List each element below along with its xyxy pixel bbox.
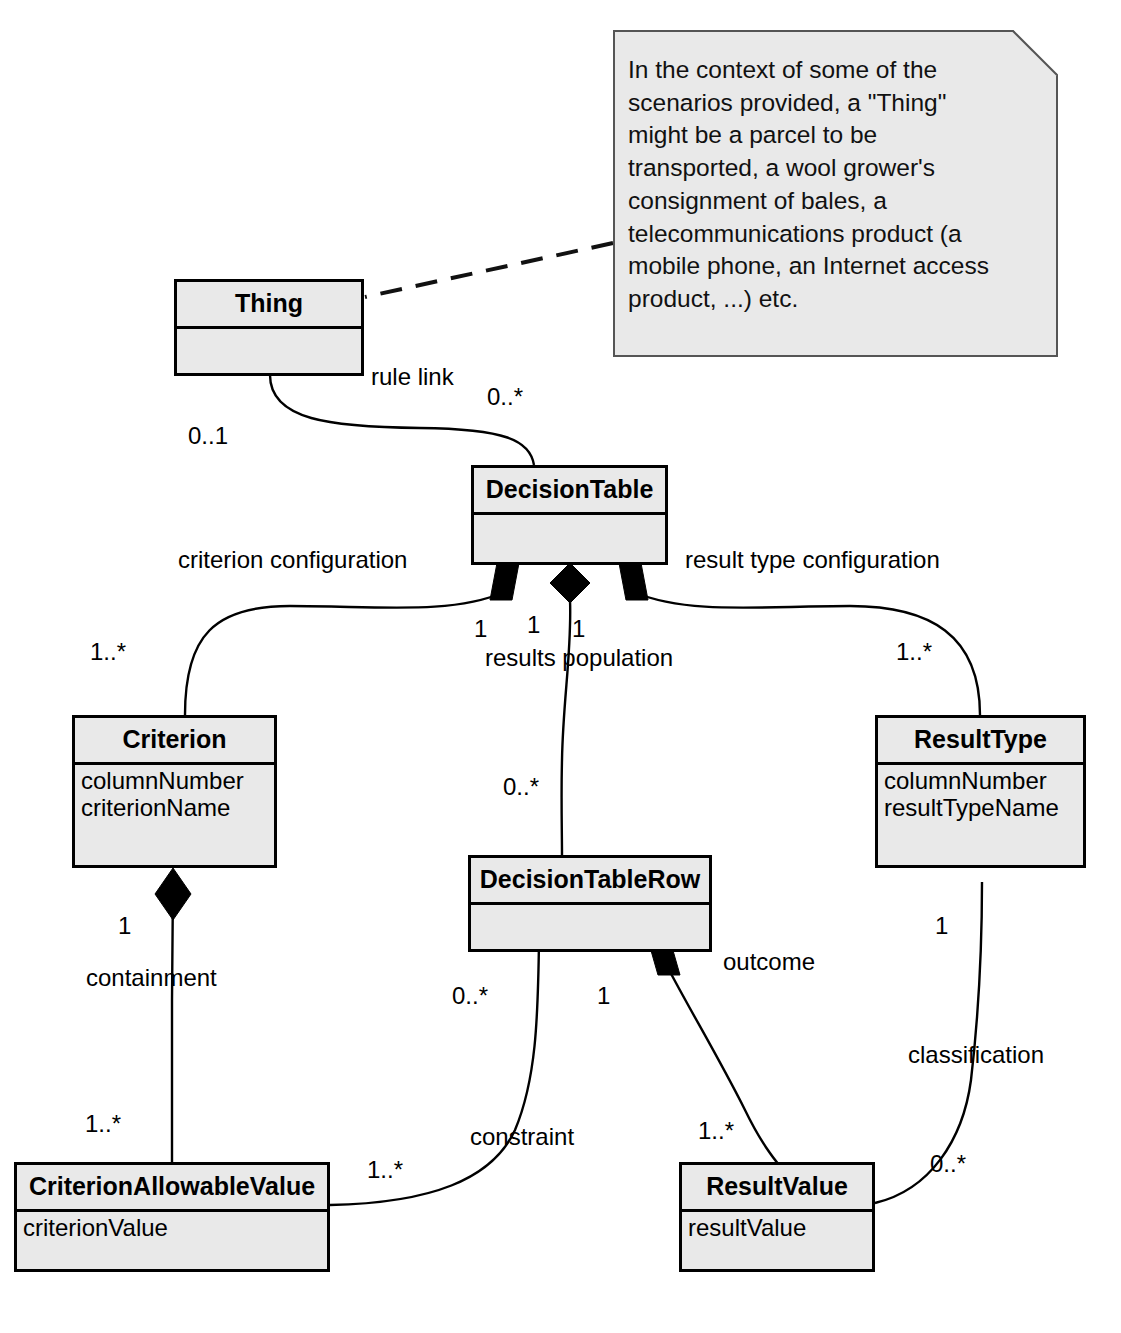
multiplicity-results-population-source: 1 xyxy=(527,613,540,637)
edge-containment xyxy=(172,882,173,1162)
class-box-result-type[interactable]: ResultType columnNumber resultTypeName xyxy=(875,715,1086,868)
edge-label-criterion-configuration: criterion configuration xyxy=(178,548,407,572)
class-attributes-criterion-allowable-value: criterionValue xyxy=(17,1212,327,1245)
class-name-decision-table: DecisionTable xyxy=(474,468,665,515)
class-box-thing[interactable]: Thing xyxy=(174,279,364,376)
class-box-decision-table[interactable]: DecisionTable xyxy=(471,465,668,565)
multiplicity-results-population-extra: 1 xyxy=(572,617,585,641)
note-anchor-line xyxy=(365,243,613,297)
edge-results-population xyxy=(562,600,571,855)
edge-label-classification: classification xyxy=(908,1043,1044,1067)
multiplicity-outcome-source: 1 xyxy=(597,984,610,1008)
edge-label-outcome: outcome xyxy=(723,950,815,974)
class-name-result-value: ResultValue xyxy=(682,1165,872,1212)
multiplicity-criterion-configuration-target: 1..* xyxy=(90,640,126,664)
multiplicity-outcome-target: 1..* xyxy=(698,1119,734,1143)
class-box-result-value[interactable]: ResultValue resultValue xyxy=(679,1162,875,1272)
edge-label-containment: containment xyxy=(86,966,217,990)
class-name-criterion-allowable-value: CriterionAllowableValue xyxy=(17,1165,327,1212)
composition-diamond-criterion-configuration xyxy=(490,563,519,600)
multiplicity-containment-target: 1..* xyxy=(85,1112,121,1136)
attribute: columnNumber xyxy=(81,767,268,794)
multiplicity-containment-source: 1 xyxy=(118,914,131,938)
attribute: criterionValue xyxy=(23,1214,321,1241)
edge-constraint xyxy=(330,940,539,1205)
multiplicity-classification-target: 0..* xyxy=(930,1152,966,1176)
class-box-criterion-allowable-value[interactable]: CriterionAllowableValue criterionValue xyxy=(14,1162,330,1272)
multiplicity-criterion-configuration-source: 1 xyxy=(474,617,487,641)
multiplicity-classification-source: 1 xyxy=(935,914,948,938)
class-attributes-criterion: columnNumber criterionName xyxy=(75,765,274,825)
multiplicity-constraint-source: 0..* xyxy=(452,984,488,1008)
edge-criterion-configuration xyxy=(185,592,505,715)
class-box-criterion[interactable]: Criterion columnNumber criterionName xyxy=(72,715,277,868)
uml-class-diagram: In the context of some of the scenarios … xyxy=(0,0,1121,1333)
class-box-decision-table-row[interactable]: DecisionTableRow xyxy=(468,855,712,952)
edge-label-results-population: results population xyxy=(485,646,673,670)
edge-label-result-type-configuration: result type configuration xyxy=(685,548,940,572)
multiplicity-result-type-configuration-target: 1..* xyxy=(896,640,932,664)
note-comment: In the context of some of the scenarios … xyxy=(613,30,1058,357)
class-attributes-decision-table xyxy=(474,515,665,553)
class-attributes-result-value: resultValue xyxy=(682,1212,872,1245)
attribute: criterionName xyxy=(81,794,268,821)
multiplicity-rule-link-target: 0..* xyxy=(487,385,523,409)
attribute: resultValue xyxy=(688,1214,866,1241)
composition-diamond-results-population xyxy=(550,563,590,603)
attribute: resultTypeName xyxy=(884,794,1077,821)
class-attributes-result-type: columnNumber resultTypeName xyxy=(878,765,1083,825)
class-name-decision-table-row: DecisionTableRow xyxy=(471,858,709,905)
edge-label-rule-link: rule link xyxy=(371,365,454,389)
composition-diamond-result-type-configuration xyxy=(619,563,648,600)
multiplicity-constraint-target: 1..* xyxy=(367,1158,403,1182)
class-name-result-type: ResultType xyxy=(878,718,1083,765)
attribute: columnNumber xyxy=(884,767,1077,794)
composition-diamond-containment xyxy=(155,868,191,920)
class-attributes-thing xyxy=(177,329,361,367)
note-text: In the context of some of the scenarios … xyxy=(628,54,1000,316)
class-name-criterion: Criterion xyxy=(75,718,274,765)
edge-label-constraint: constraint xyxy=(470,1125,574,1149)
class-attributes-decision-table-row xyxy=(471,905,709,943)
multiplicity-results-population-target: 0..* xyxy=(503,775,539,799)
note-fold-corner-icon xyxy=(1012,30,1058,76)
multiplicity-rule-link-source: 0..1 xyxy=(188,424,228,448)
class-name-thing: Thing xyxy=(177,282,361,329)
